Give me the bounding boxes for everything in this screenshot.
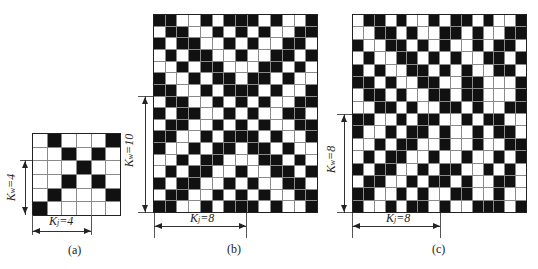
arrow-head-left-icon — [155, 223, 162, 229]
grid-cell — [154, 73, 165, 84]
grid-cell — [440, 15, 450, 26]
grid-cell — [397, 89, 407, 100]
grid-cell — [295, 143, 306, 154]
grid-cell — [48, 161, 62, 174]
grid-cell — [473, 114, 483, 125]
grid-cell — [48, 148, 62, 161]
grid-cell — [451, 27, 461, 38]
grid-cell — [283, 97, 294, 108]
grid-cell — [189, 85, 200, 96]
grid-cell — [154, 97, 165, 108]
grid-cell — [505, 40, 515, 51]
grid-cell — [462, 65, 472, 76]
grid-cell — [295, 155, 306, 166]
grid-cell — [494, 40, 504, 51]
grid-cell — [248, 143, 259, 154]
grid-cell — [484, 40, 494, 51]
grid-cell — [451, 164, 461, 175]
grid-cell — [386, 40, 396, 51]
kj-label-b: Kj=8 — [190, 211, 214, 226]
grid-cell — [375, 201, 385, 212]
grid-cell — [375, 164, 385, 175]
grid-cell — [494, 89, 504, 100]
grid-cell — [364, 139, 374, 150]
grid-cell — [375, 151, 385, 162]
grid-cell — [236, 85, 247, 96]
grid-cell — [462, 139, 472, 150]
grid-cell — [386, 15, 396, 26]
kw-label-b: Kw=10 — [122, 134, 137, 167]
grid-cell — [429, 27, 439, 38]
grid-cell — [166, 38, 177, 49]
grid-cell — [516, 201, 526, 212]
kj-guide-right-c — [440, 213, 441, 238]
grid-cell — [189, 73, 200, 84]
grid-cell — [418, 151, 428, 162]
grid-cell — [505, 201, 515, 212]
grid-cell — [397, 151, 407, 162]
grid-cell — [201, 131, 212, 142]
grid-cell — [418, 164, 428, 175]
grid-cell — [154, 131, 165, 142]
grid-cell — [177, 120, 188, 131]
grid-cell — [271, 62, 282, 73]
grid-cell — [440, 201, 450, 212]
grid-cell — [306, 97, 317, 108]
grid-cell — [201, 15, 212, 26]
grid-cell — [418, 176, 428, 187]
grid-cell — [353, 15, 363, 26]
grid-cell — [283, 27, 294, 38]
grid-cell — [484, 77, 494, 88]
grid-cell — [306, 131, 317, 142]
grid-cell — [224, 38, 235, 49]
grid-cell — [516, 164, 526, 175]
grid-cell — [236, 73, 247, 84]
grid-cell — [77, 202, 91, 215]
grid-cell — [397, 52, 407, 63]
grid-cell — [473, 65, 483, 76]
grid-cell — [375, 126, 385, 137]
grid-cell — [462, 114, 472, 125]
grid-cell — [353, 176, 363, 187]
grid-cell — [201, 166, 212, 177]
grid-cell — [166, 27, 177, 38]
grid-cell — [418, 126, 428, 137]
grid-cell — [189, 155, 200, 166]
grid-cell — [248, 120, 259, 131]
grid-cell — [364, 151, 374, 162]
grid-cell — [505, 77, 515, 88]
grid-cell — [33, 202, 47, 215]
grid-cell — [473, 27, 483, 38]
grid-cell — [407, 188, 417, 199]
grid-cell — [201, 27, 212, 38]
grid-cell — [462, 40, 472, 51]
grid-cell — [397, 164, 407, 175]
grid-cell — [166, 190, 177, 201]
grid-cell — [451, 188, 461, 199]
grid-cell — [353, 77, 363, 88]
grid-cell — [259, 155, 270, 166]
grid-cell — [295, 97, 306, 108]
grid-cell — [353, 65, 363, 76]
grid-cell — [106, 202, 120, 215]
arrow-head-up-icon — [22, 161, 28, 168]
arrow-head-right-icon — [84, 228, 91, 234]
grid-cell — [407, 139, 417, 150]
grid-cell — [224, 166, 235, 177]
grid-cell — [248, 97, 259, 108]
grid-cell — [201, 62, 212, 73]
grid-cell — [77, 175, 91, 188]
grid-cell — [177, 97, 188, 108]
grid-cell — [189, 143, 200, 154]
grid-cell — [189, 108, 200, 119]
grid-cell — [386, 52, 396, 63]
grid-cell — [386, 89, 396, 100]
grid-cell — [236, 190, 247, 201]
grid-cell — [166, 50, 177, 61]
grid-cell — [106, 161, 120, 174]
grid-cell — [397, 40, 407, 51]
grid-cell — [166, 108, 177, 119]
grid-cell — [440, 27, 450, 38]
grid-cell — [494, 15, 504, 26]
grid-cell — [364, 52, 374, 63]
